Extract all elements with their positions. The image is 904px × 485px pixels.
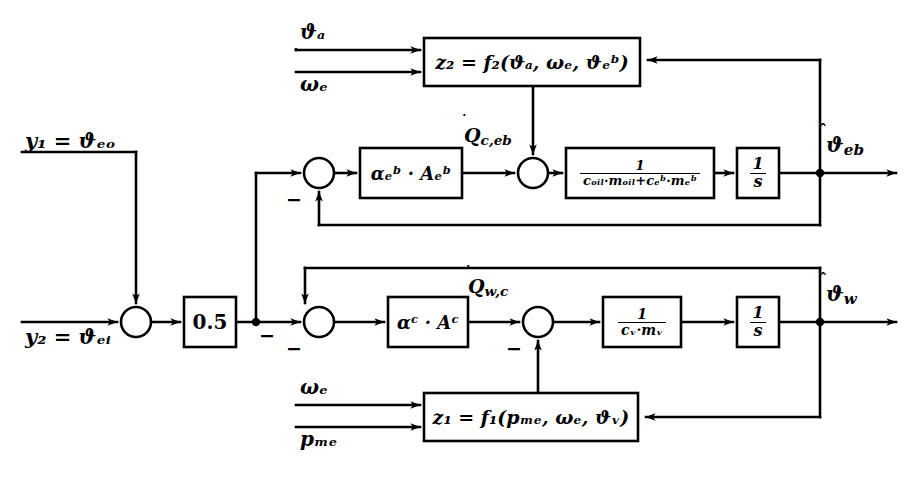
block-label-f1: z₁ = f₁(pₘₑ, ωₑ, ϑᵥ): [424, 393, 638, 441]
block-label-oil-mass: 1 cₒᵢₗ·mₒᵢₗ+cₑᵇ·mₑᵇ: [566, 148, 714, 198]
junction-dot-theta-w: [816, 318, 824, 326]
block-label-f2: z₂ = f₂(ϑₐ, ωₑ, ϑₑᵇ): [424, 38, 640, 86]
block-label-integrator-w: 1 s: [737, 297, 779, 347]
minus-sign-w-error: −: [286, 339, 302, 358]
junction-dot-theta-eb: [816, 169, 824, 177]
output-label-theta-eb-hat: ̂ ϑeb: [826, 134, 864, 158]
input-label-omega-e-bottom: ωₑ: [300, 377, 328, 397]
fraction-denominator-int-w: s: [750, 322, 765, 340]
fraction-numerator-water: 1: [634, 307, 650, 322]
summer-circle-w-error: [304, 307, 334, 337]
minus-sign-eb-error: −: [286, 190, 302, 209]
fraction-numerator-int-eb: 1: [749, 156, 766, 173]
signal-label-qdot-w-c: ̇ Qw,c: [468, 277, 508, 299]
block-label-half-gain: 0.5: [184, 297, 236, 347]
summer-circle-input: [121, 307, 151, 337]
input-label-omega-e-top: ωₑ: [300, 74, 328, 94]
input-label-y2: y₂ = ϑₑᵢ: [25, 326, 111, 347]
summer-circle-w-heat: [523, 307, 553, 337]
minus-sign-half-branch: −: [259, 326, 275, 345]
summer-circle-eb-heat: [518, 158, 548, 188]
fraction-denominator-water: cᵥ·mᵥ: [618, 322, 666, 338]
block-label-integrator-eb: 1 s: [737, 148, 779, 198]
output-label-theta-w-hat: ̂ ϑw: [826, 283, 857, 307]
block-label-alpha-c: αᶜ · Aᶜ: [388, 297, 468, 347]
fraction-denominator-oil: cₒᵢₗ·mₒᵢₗ+cₑᵇ·mₑᵇ: [580, 173, 700, 188]
signal-label-qdot-c-eb: ̇ Qc,eb: [464, 126, 512, 148]
block-diagram-canvas: ϑₐ ωₑ y₁ = ϑₑₒ y₂ = ϑₑᵢ ωₑ pₘₑ ̂ ϑeb ̂ ϑ…: [0, 0, 904, 485]
minus-sign-w-heat: −: [506, 339, 522, 358]
input-label-theta-a: ϑₐ: [300, 22, 325, 42]
fraction-denominator-int-eb: s: [750, 173, 765, 191]
fraction-numerator-oil: 1: [632, 159, 647, 173]
block-label-water-mass: 1 cᵥ·mᵥ: [603, 297, 681, 347]
block-label-alpha-eb: αₑᵇ · Aₑᵇ: [360, 148, 462, 198]
summer-circle-eb-error: [304, 158, 334, 188]
input-label-y1: y₁ = ϑₑₒ: [25, 130, 116, 151]
input-label-p-me: pₘₑ: [300, 429, 337, 449]
fraction-numerator-int-w: 1: [749, 305, 766, 322]
